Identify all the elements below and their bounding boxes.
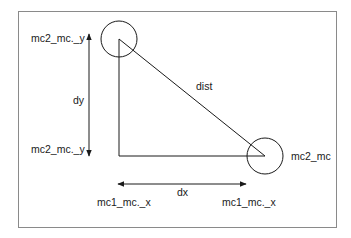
dist-hypotenuse-line — [119, 39, 265, 156]
left-x-label: mc1_mc._x — [97, 196, 151, 208]
dy-label: dy — [73, 94, 84, 106]
dist-label: dist — [196, 80, 212, 92]
mc2-mc-label: mc2_mc — [291, 150, 331, 162]
dx-label: dx — [177, 186, 188, 198]
right-x-label: mc1_mc._x — [222, 196, 276, 208]
top-y-label: mc2_mc._y — [31, 32, 85, 44]
distance-diagram: mc2_mc._y dy mc2_mc._y dist mc2_mc dx mc… — [0, 0, 351, 238]
bottom-y-label: mc2_mc._y — [31, 143, 85, 155]
